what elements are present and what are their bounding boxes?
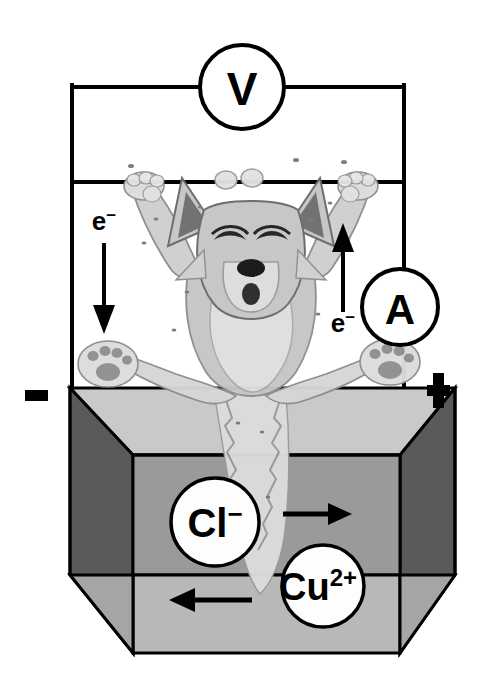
fox-mouth	[242, 283, 260, 305]
ammeter-label: A	[385, 286, 415, 333]
fox-head-tuft-left	[215, 171, 237, 189]
voltmeter[interactable]: V	[200, 45, 284, 129]
chloride-ion[interactable]: Cl−	[171, 478, 259, 566]
voltmeter-label: V	[227, 63, 258, 115]
fox-head-tuft-right	[241, 169, 263, 187]
fox-right-hind-paw	[360, 339, 420, 385]
electrolysis-diagram-svg: V A e− e−	[0, 0, 483, 700]
diagram-canvas: V A e− e−	[0, 0, 483, 700]
fox-left-hind-paw	[78, 341, 138, 387]
ammeter[interactable]: A	[362, 269, 438, 345]
minus-sign-glyph	[25, 390, 48, 401]
fox-nose	[237, 259, 265, 277]
negative-terminal	[25, 390, 48, 401]
copper-ion[interactable]: Cu2+	[279, 545, 364, 627]
plus-sign-vertical	[433, 373, 444, 408]
